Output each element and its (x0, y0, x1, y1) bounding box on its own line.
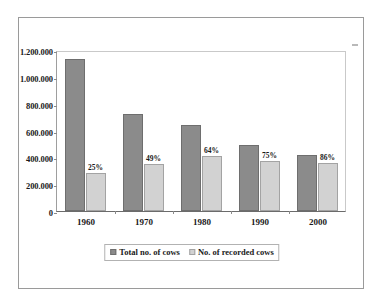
y-axis-tick-label: 1.200.000 (20, 47, 53, 57)
y-axis-tick-label: 800.000 (26, 101, 53, 111)
y-axis-tick-mark (54, 159, 57, 160)
legend-label: Total no. of cows (119, 247, 180, 257)
y-axis-tick-mark (54, 106, 57, 107)
x-axis-tick-label-1980: 1980 (193, 217, 211, 227)
y-axis-tick-label: 0 (49, 208, 53, 218)
bar-1970-recorded[interactable]: 49% (144, 164, 164, 211)
legend-entry-recorded[interactable]: No. of recorded cows (189, 247, 274, 257)
bar-chart: 1.200.0001.000.000800.000600.000400.0002… (19, 18, 365, 290)
plot-area: 1.200.0001.000.000800.000600.000400.0002… (56, 51, 346, 212)
x-axis-tick-mark (231, 211, 232, 214)
bar-1980-total[interactable] (181, 125, 201, 211)
bar-1980-recorded[interactable]: 64% (202, 156, 222, 211)
bar-1970-total[interactable] (123, 114, 143, 211)
bar-percent-label-1990: 75% (262, 151, 277, 160)
bar-2000-total[interactable] (297, 155, 317, 211)
legend-swatch-recorded-icon (189, 249, 195, 255)
y-axis-tick-mark (54, 79, 57, 80)
x-axis-tick-mark (115, 211, 116, 214)
figure-frame: 1.200.0001.000.000800.000600.000400.0002… (18, 17, 364, 289)
legend-swatch-total-icon (110, 249, 116, 255)
y-axis-tick-mark (54, 186, 57, 187)
chart-object-handle[interactable] (352, 44, 358, 46)
x-axis-tick-label-1960: 1960 (77, 217, 95, 227)
y-axis-tick-label: 400.000 (26, 154, 53, 164)
y-axis-tick-label: 1.000.000 (20, 74, 53, 84)
bar-1990-total[interactable] (239, 145, 259, 211)
y-axis-tick-label: 200.000 (26, 181, 53, 191)
y-axis-tick-mark (54, 133, 57, 134)
bar-1960-recorded[interactable]: 25% (86, 173, 106, 211)
bar-percent-label-2000: 86% (320, 153, 335, 162)
bar-1990-recorded[interactable]: 75% (260, 161, 280, 211)
y-axis-tick-mark (54, 52, 57, 53)
x-axis-tick-label-1990: 1990 (251, 217, 269, 227)
y-axis-tick-mark (54, 213, 57, 214)
bar-1960-total[interactable] (65, 59, 85, 211)
x-axis-tick-label-2000: 2000 (309, 217, 327, 227)
legend-entry-total[interactable]: Total no. of cows (110, 247, 180, 257)
x-axis-tick-label-1970: 1970 (135, 217, 153, 227)
legend-label: No. of recorded cows (198, 247, 274, 257)
chart-legend: Total no. of cowsNo. of recorded cows (104, 244, 279, 261)
bar-percent-label-1970: 49% (146, 154, 161, 163)
bar-2000-recorded[interactable]: 86% (318, 163, 338, 211)
y-axis-tick-label: 600.000 (26, 128, 53, 138)
bar-percent-label-1960: 25% (88, 163, 103, 172)
x-axis-tick-mark (289, 211, 290, 214)
x-axis-tick-mark (173, 211, 174, 214)
bar-percent-label-1980: 64% (204, 146, 219, 155)
